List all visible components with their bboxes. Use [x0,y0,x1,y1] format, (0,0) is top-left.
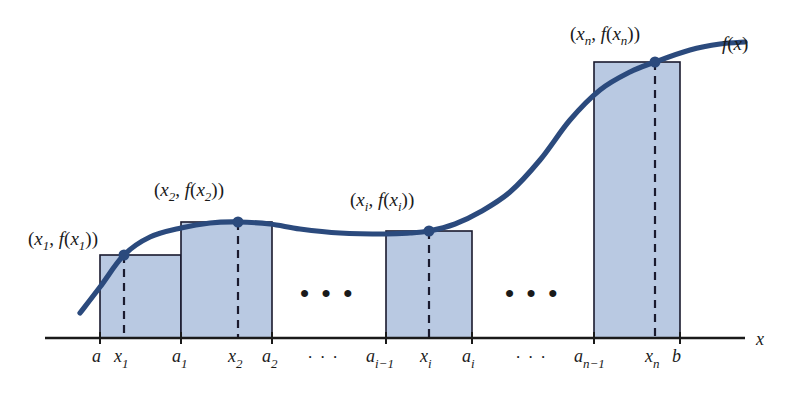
dot-x2 [233,217,244,228]
axis-ellipsis-right: . . . [516,343,547,362]
gap-ellipsis-left: • • • [300,279,355,308]
axis-label-a: a [92,346,101,366]
dot-x1 [119,250,130,261]
rect-n [594,62,680,338]
axis-ellipsis-left: . . . [308,343,339,362]
axis-label-b: b [672,346,681,366]
axis-label-x: x [755,329,764,349]
axis-label-xn: xn [644,346,660,371]
dot-xi [424,226,435,237]
axis-label-x2: x2 [227,346,243,371]
point-label-x1: (x1, f(x1)) [28,228,98,253]
riemann-sum-diagram: (x1, f(x1)) (x2, f(x2)) (xi, f(xi)) (xn,… [0,0,795,393]
axis-label-a1: a1 [172,346,188,371]
axis-label-x1: x1 [113,346,129,371]
axis-label-ai: ai [462,346,475,371]
axis-label-a2: a2 [262,346,278,371]
curve-label-fx: f(x) [722,33,748,55]
point-label-xi: (xi, f(xi)) [350,189,414,214]
point-label-x2: (x2, f(x2)) [154,179,224,204]
gap-ellipsis-right: • • • [505,279,560,308]
axis-label-xi: xi [419,346,432,371]
point-label-xn: (xn, f(xn)) [570,23,640,48]
axis-label-an-1: an−1 [574,346,605,371]
axis-label-ai-1: ai−1 [366,346,394,371]
rect-2 [181,222,272,338]
dot-xn [650,57,661,68]
